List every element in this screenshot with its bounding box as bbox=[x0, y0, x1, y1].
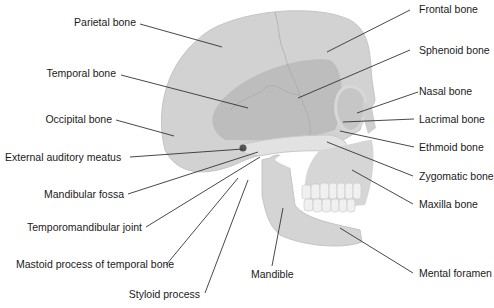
auditory-meatus-dot bbox=[240, 145, 247, 152]
label-maxilla-bone: Maxilla bone bbox=[419, 198, 478, 210]
label-sphenoid-bone: Sphenoid bone bbox=[419, 44, 490, 56]
label-lacrimal-bone: Lacrimal bone bbox=[419, 113, 485, 125]
label-occipital-bone: Occipital bone bbox=[16, 113, 112, 125]
label-zygomatic-bone: Zygomatic bone bbox=[419, 170, 494, 182]
label-parietal-bone: Parietal bone bbox=[40, 16, 136, 28]
label-mandibular-fossa: Mandibular fossa bbox=[20, 188, 124, 200]
teeth bbox=[302, 183, 361, 212]
label-temporal-bone: Temporal bone bbox=[20, 67, 116, 79]
skull-diagram: Parietal bone Temporal bone Occipital bo… bbox=[0, 0, 494, 308]
label-temporomandibular-joint: Temporomandibular joint bbox=[10, 221, 142, 233]
label-ethmoid-bone: Ethmoid bone bbox=[419, 141, 484, 153]
orbit bbox=[336, 87, 366, 132]
label-mastoid-process: Mastoid process of temporal bone bbox=[16, 258, 174, 270]
label-mental-foramen: Mental foramen bbox=[419, 267, 492, 279]
label-mandible: Mandible bbox=[251, 268, 294, 280]
label-styloid-process: Styloid process bbox=[100, 288, 200, 300]
label-nasal-bone: Nasal bone bbox=[419, 85, 472, 97]
label-external-auditory-meatus: External auditory meatus bbox=[5, 151, 121, 163]
label-frontal-bone: Frontal bone bbox=[419, 3, 478, 15]
